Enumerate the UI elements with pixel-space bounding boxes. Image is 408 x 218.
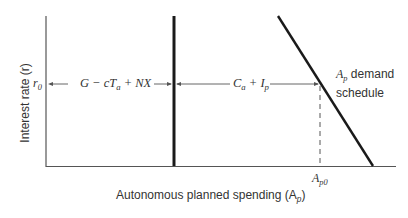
y-axis-label: Interest rate (r) — [18, 48, 32, 158]
right-segment-label: Ca + Ip — [233, 76, 269, 92]
x-axis-label-text: Autonomous planned spending (A — [116, 188, 297, 202]
x-axis-label: Autonomous planned spending (Ap) — [116, 188, 305, 204]
seg-right-b: + I — [246, 76, 265, 90]
arrowhead-icon — [176, 82, 181, 86]
r0-sub: 0 — [38, 83, 42, 92]
y-axis-label-text: Interest rate (r) — [18, 63, 32, 142]
diagram-canvas — [0, 0, 408, 218]
left-segment-label: G − cTa + NX — [80, 76, 151, 92]
x-axis-label-end: ) — [301, 188, 305, 202]
arrowhead-icon — [48, 82, 53, 86]
r0-label: r0 — [33, 76, 42, 92]
arrowhead-icon — [167, 82, 172, 86]
seg-left-b: + NX — [121, 76, 152, 90]
arrowhead-icon — [314, 82, 319, 86]
seg-left-a: G − cT — [80, 76, 116, 90]
demand-schedule-label: Ap demand schedule — [336, 67, 394, 100]
ap0-sub: p0 — [319, 178, 327, 187]
seg-right-sub2: p — [265, 82, 269, 92]
demand-label-line2: schedule — [336, 86, 394, 100]
demand-label-rest: demand — [348, 67, 395, 81]
ap0-tick-label: Ap0 — [312, 171, 328, 187]
